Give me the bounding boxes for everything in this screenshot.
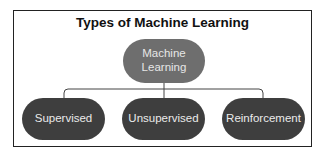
root-label-line2: Learning	[142, 61, 187, 75]
child-node-supervised: Supervised	[22, 98, 105, 140]
child-label: Supervised	[35, 112, 93, 126]
child-label: Unsupervised	[128, 112, 198, 126]
root-label-line1: Machine	[142, 47, 187, 61]
child-label: Reinforcement	[226, 112, 301, 126]
root-node-machine-learning: Machine Learning	[123, 39, 205, 83]
child-node-reinforcement: Reinforcement	[222, 98, 305, 140]
child-node-unsupervised: Unsupervised	[122, 98, 205, 140]
